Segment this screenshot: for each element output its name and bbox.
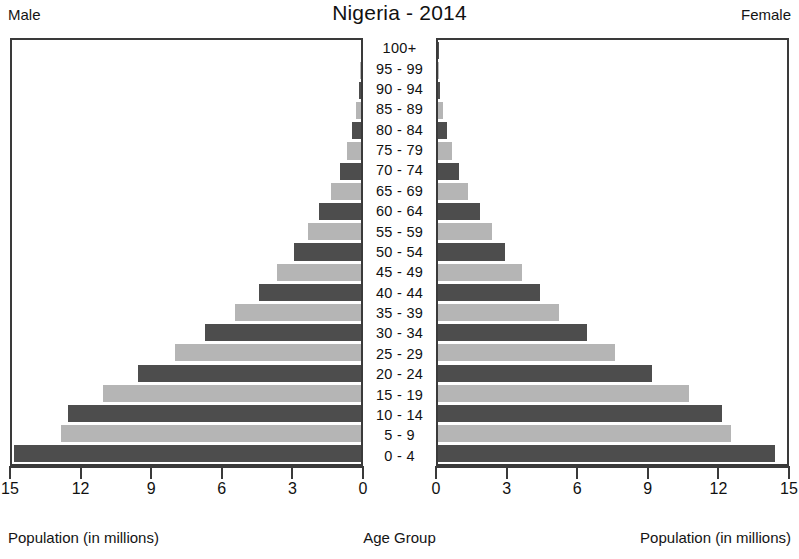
bar-row [12, 242, 361, 262]
male-axis-tick-label: 6 [217, 480, 226, 498]
female-plot-panel [436, 38, 789, 466]
male-bar [294, 243, 361, 260]
female-bar [438, 324, 587, 341]
male-axis-tick-label: 15 [1, 480, 19, 498]
bar-row [438, 282, 787, 302]
male-axis-tick [221, 466, 223, 479]
male-x-axis: 15129630 [10, 466, 363, 500]
male-bar [331, 183, 361, 200]
bar-row [12, 343, 361, 363]
bar-row [12, 181, 361, 201]
male-bar [360, 62, 361, 79]
female-axis-tick-label: 0 [432, 480, 441, 498]
bar-row [12, 262, 361, 282]
male-bar [340, 163, 361, 180]
bar-row [438, 40, 787, 60]
age-group-label: 90 - 94 [363, 79, 436, 99]
age-group-label: 40 - 44 [363, 283, 436, 303]
bar-row [438, 101, 787, 121]
bar-row [438, 302, 787, 322]
male-axis-tick [80, 466, 82, 479]
bar-row [438, 424, 787, 444]
bar-row [12, 302, 361, 322]
female-axis-tick [435, 466, 437, 479]
female-axis-tick-label: 6 [573, 480, 582, 498]
female-bar [438, 425, 731, 442]
bar-row [438, 181, 787, 201]
age-group-label: 55 - 59 [363, 221, 436, 241]
male-axis-tick-label: 12 [72, 480, 90, 498]
age-group-label: 25 - 29 [363, 344, 436, 364]
male-bar [103, 385, 361, 402]
male-bar [14, 445, 361, 462]
bar-row [438, 403, 787, 423]
age-group-label: 50 - 54 [363, 242, 436, 262]
age-group-label: 45 - 49 [363, 262, 436, 282]
female-bar [438, 264, 522, 281]
bar-row [12, 141, 361, 161]
female-bar-rows [438, 40, 787, 464]
bar-row [438, 262, 787, 282]
age-group-label: 0 - 4 [363, 446, 436, 466]
bar-row [12, 121, 361, 141]
bar-row [12, 222, 361, 242]
bar-row [12, 403, 361, 423]
age-group-label: 5 - 9 [363, 425, 436, 445]
age-group-label: 85 - 89 [363, 99, 436, 119]
bar-row [438, 202, 787, 222]
bar-row [438, 222, 787, 242]
female-axis-tick-label: 12 [709, 480, 727, 498]
bar-row [438, 141, 787, 161]
female-bar [438, 163, 459, 180]
bar-row [12, 363, 361, 383]
male-axis-tick [362, 466, 364, 479]
bar-row [12, 202, 361, 222]
male-bar [68, 405, 361, 422]
female-bar [438, 445, 775, 462]
female-bar [438, 344, 615, 361]
bar-row [12, 424, 361, 444]
female-bar [438, 82, 440, 99]
female-axis-tick-label: 3 [502, 480, 511, 498]
male-bar [359, 82, 361, 99]
male-bar [347, 142, 361, 159]
age-group-label: 80 - 84 [363, 120, 436, 140]
female-bar [438, 142, 452, 159]
male-bar [235, 304, 361, 321]
female-bar [438, 243, 505, 260]
bar-row [12, 101, 361, 121]
female-axis-tick-label: 15 [780, 480, 798, 498]
male-bar-rows [12, 40, 361, 464]
bar-row [438, 363, 787, 383]
female-x-axis: 03691215 [436, 466, 789, 500]
bar-row [12, 323, 361, 343]
male-bar [356, 102, 361, 119]
age-group-label: 65 - 69 [363, 181, 436, 201]
age-group-label: 75 - 79 [363, 140, 436, 160]
bar-row [438, 444, 787, 464]
bar-row [438, 60, 787, 80]
male-axis-tick-label: 3 [288, 480, 297, 498]
age-group-axis-column: 100+95 - 9990 - 9485 - 8980 - 8475 - 797… [363, 38, 436, 466]
bar-row [12, 383, 361, 403]
female-bar [438, 284, 540, 301]
female-axis-tick [647, 466, 649, 479]
bar-row [12, 282, 361, 302]
male-axis-tick-label: 9 [147, 480, 156, 498]
female-bar [438, 203, 480, 220]
male-bar [138, 365, 361, 382]
female-bar [438, 102, 443, 119]
age-group-label: 60 - 64 [363, 201, 436, 221]
male-bar [205, 324, 361, 341]
male-axis-line [10, 466, 363, 468]
population-pyramid-chart: Male Nigeria - 2014 Female 100+95 - 9990… [0, 0, 799, 559]
female-side-label: Female [741, 6, 791, 23]
female-axis-tick [788, 466, 790, 479]
male-axis-tick [291, 466, 293, 479]
bar-row [438, 343, 787, 363]
female-axis-tick [506, 466, 508, 479]
male-bar [352, 122, 361, 139]
female-bar [438, 223, 492, 240]
bar-row [12, 161, 361, 181]
female-bar [438, 183, 468, 200]
